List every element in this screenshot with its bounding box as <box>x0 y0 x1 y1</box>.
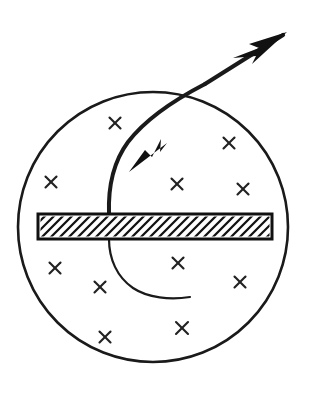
plate-interior <box>38 214 272 239</box>
diagram-canvas <box>0 0 310 396</box>
hatched-plate <box>13 214 310 239</box>
physics-diagram-figure: Charged particle trajectory entering mag… <box>0 0 310 396</box>
canvas-background <box>0 0 310 396</box>
